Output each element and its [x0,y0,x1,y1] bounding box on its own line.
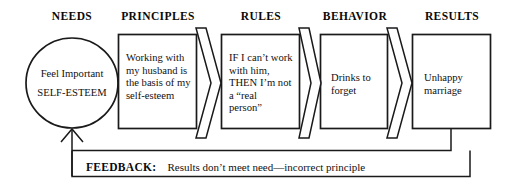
behavior-node-text: Drinks to forget [331,72,391,97]
column-header-rules: RULES [241,10,281,22]
results-node-text: Unhappy marriage [424,72,490,97]
principles-node-text: Working with my husband is the basis of … [126,52,198,102]
diagram-canvas: NEEDS PRINCIPLES RULES BEHAVIOR RESULTS … [0,0,516,184]
column-header-principles: PRINCIPLES [121,10,195,22]
needs-node-line1: Feel Important [26,65,118,82]
feedback-text: Results don’t meet need—incorrect princi… [167,161,365,173]
arrow-principles-to-rules-icon [196,28,221,138]
feedback-label: FEEDBACK: [86,161,156,173]
column-header-behavior: BEHAVIOR [323,10,387,22]
rules-node-text: IF I can’t work with him, THEN I’m not a… [229,52,303,115]
column-header-needs: NEEDS [52,10,92,22]
column-header-results: RESULTS [425,10,479,22]
needs-node-line2: SELF-ESTEEM [26,84,118,101]
feedback-bar: FEEDBACK: Results don’t meet need—incorr… [86,157,470,177]
needs-ellipse [26,38,118,128]
